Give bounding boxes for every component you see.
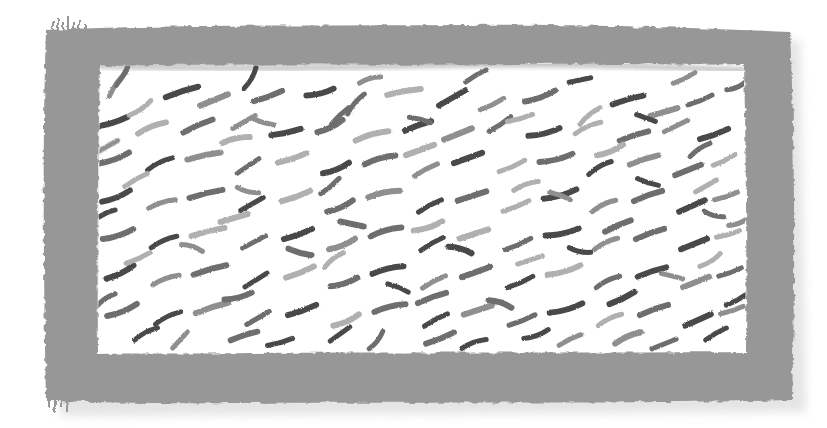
artboard: Hand-drawn hatched texture field A rough… (0, 0, 827, 428)
drawing-canvas (0, 0, 827, 428)
